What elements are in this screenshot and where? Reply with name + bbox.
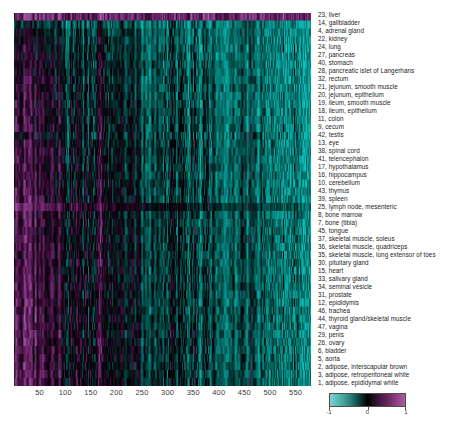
x-tick-label: 50 <box>35 388 44 397</box>
row-label: 10, cerebellum <box>318 179 360 186</box>
x-axis-tick-labels: 50100150200250300350400450500550 <box>14 388 311 404</box>
row-label: 13, eye <box>318 139 339 146</box>
row-label: 40, stomach <box>318 59 353 66</box>
row-label: 39, spleen <box>318 195 348 202</box>
heatmap-plot-area <box>14 13 311 386</box>
row-label: 37, skeletal muscle, soleus <box>318 235 395 242</box>
row-label: 32, rectum <box>318 75 348 82</box>
row-label: 45, tongue <box>318 227 348 234</box>
row-label: 42, testis <box>318 131 344 138</box>
row-label: 5, aorta <box>318 355 340 362</box>
row-label: 26, ovary <box>318 339 344 346</box>
row-label: 33, salivary gland <box>318 275 368 282</box>
row-label: 30, pituitary gland <box>318 259 369 266</box>
row-label: 31, prostate <box>318 291 352 298</box>
row-label: 1, adipose, epididymal white <box>318 379 399 386</box>
row-label: 43, thymus <box>318 187 349 194</box>
x-tick-label: 400 <box>212 388 225 397</box>
row-label: 2, adipose, interscapular brown <box>318 363 407 370</box>
row-label: 9, cecum <box>318 123 344 130</box>
row-label: 3, adipose, retroperitoneal white <box>318 371 409 378</box>
x-tick-label: 350 <box>187 388 200 397</box>
x-tick-label: 250 <box>135 388 148 397</box>
row-label: 46, trachea <box>318 307 350 314</box>
x-tick-label: 200 <box>110 388 123 397</box>
x-tick-label: 550 <box>289 388 302 397</box>
row-label: 8, bone marrow <box>318 211 362 218</box>
row-label: 44, thyroid gland/skeletal muscle <box>318 315 411 322</box>
x-tick-label: 100 <box>59 388 72 397</box>
x-tick-label: 300 <box>161 388 174 397</box>
colorbar-tick-label: -1 <box>326 409 331 415</box>
row-label: 23, liver <box>318 11 341 18</box>
row-label: 6, bladder <box>318 347 347 354</box>
heatmap-image <box>14 13 311 386</box>
row-label: 11, colon <box>318 115 344 122</box>
row-label: 15, heart <box>318 267 343 274</box>
row-label: 14, gallbladder <box>318 19 360 26</box>
row-label: 19, ileum, smooth muscle <box>318 99 391 106</box>
row-label: 25, lymph node, mesenteric <box>318 203 397 210</box>
row-label: 35, skeletal muscle, long extensor of to… <box>318 251 436 258</box>
colorbar-tick-labels: -101 <box>329 407 406 419</box>
colorbar: -101 <box>329 393 407 420</box>
row-label: 38, spinal cord <box>318 147 360 154</box>
row-label: 36, skeletal muscle, quadriceps <box>318 243 407 250</box>
row-label: 27, pancreas <box>318 51 355 58</box>
row-label: 29, penis <box>318 331 344 338</box>
colorbar-tick-label: 1 <box>404 409 407 415</box>
row-label: 17, hypothalamus <box>318 163 369 170</box>
x-tick-label: 150 <box>84 388 97 397</box>
x-tick-label: 500 <box>263 388 276 397</box>
row-label: 22, kidney <box>318 35 347 42</box>
x-tick-label: 450 <box>238 388 251 397</box>
row-label: 16, hippocampus <box>318 171 367 178</box>
row-label: 24, lung <box>318 43 341 50</box>
row-label: 21, jejunum, smooth muscle <box>318 83 398 90</box>
heatmap-figure: 50100150200250300350400450500550 23, liv… <box>0 0 459 421</box>
row-label: 41, telencephalon <box>318 155 369 162</box>
row-label: 18, ileum, epithelium <box>318 107 377 114</box>
row-label-list: 23, liver14, gallbladder4, adrenal gland… <box>318 11 458 387</box>
colorbar-gradient <box>329 393 406 407</box>
colorbar-tick-label: 0 <box>366 409 369 415</box>
row-label: 47, vagina <box>318 323 348 330</box>
row-label: 4, adrenal gland <box>318 27 364 34</box>
row-label: 34, seminal vesicle <box>318 283 372 290</box>
row-label: 28, pancreatic islet of Langerhans <box>318 67 414 74</box>
row-label: 7, bone (tibia) <box>318 219 357 226</box>
row-label: 12, epididymis <box>318 299 359 306</box>
row-label: 20, jejunum, epithelium <box>318 91 384 98</box>
